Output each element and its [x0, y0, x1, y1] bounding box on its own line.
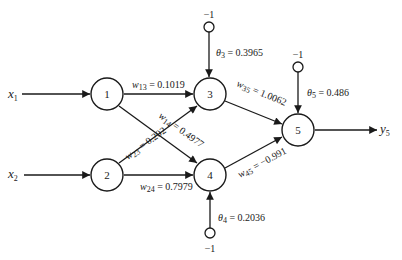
- theta-5-label: θ5 = 0.486: [307, 87, 349, 100]
- neuron-2: 2: [91, 159, 123, 191]
- output-y5-label: y5: [378, 121, 390, 138]
- weight-w45-label: w45 = −0.991: [236, 145, 289, 182]
- neuron-1: 1: [91, 78, 123, 110]
- neuron-1-label: 1: [104, 88, 110, 100]
- theta-3-label: θ3 = 0.3965: [216, 47, 263, 60]
- neuron-3-label: 3: [207, 88, 213, 100]
- input-x2-label: x2: [7, 166, 18, 183]
- neuron-4: 4: [194, 159, 226, 191]
- neuron-5-label: 5: [295, 124, 301, 136]
- bias-node-4: [205, 228, 215, 238]
- weight-w24-label: w24 = 0.7979: [140, 181, 193, 194]
- theta-4-label: θ4 = 0.2036: [218, 212, 265, 225]
- bias-3-value: −1: [204, 9, 215, 20]
- neural-network-diagram: 1 2 3 4 5 x1 x2 y5 −1 −1 −1 θ3 = 0.3965 …: [0, 0, 402, 260]
- bias-5-value: −1: [293, 49, 304, 60]
- weight-w13-label: w13 = 0.1019: [132, 79, 185, 92]
- neuron-3: 3: [194, 78, 226, 110]
- bias-node-3: [204, 22, 214, 32]
- neuron-5: 5: [282, 114, 314, 146]
- edge-3-to-5: [225, 101, 282, 124]
- input-x1-label: x1: [7, 86, 18, 103]
- neuron-2-label: 2: [104, 169, 110, 181]
- bias-4-value: −1: [205, 243, 216, 254]
- weight-w23-label: w23 = 0.202: [123, 125, 169, 164]
- neuron-4-label: 4: [207, 169, 213, 181]
- bias-node-5: [293, 62, 303, 72]
- weight-w35-label: w35 = 1.0062: [235, 78, 289, 110]
